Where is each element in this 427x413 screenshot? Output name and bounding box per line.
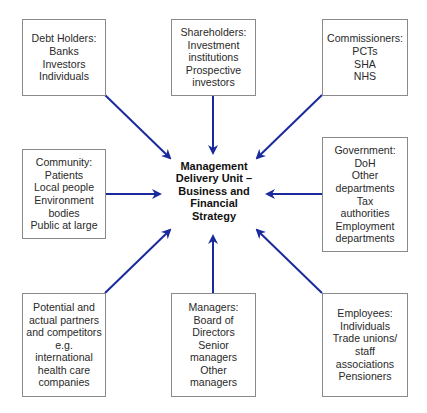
- box-line: Community:: [36, 156, 93, 169]
- center-line: Delivery Unit –: [150, 172, 278, 184]
- box-line: authorities: [341, 207, 390, 220]
- box-line: departments: [336, 232, 395, 245]
- box-partners-competitors: Potential and actual partners and compet…: [22, 293, 106, 397]
- box-line: Directors: [192, 326, 234, 339]
- box-line: SHA: [354, 58, 376, 71]
- arrow-commissioners: [257, 95, 322, 158]
- box-line: managers: [190, 376, 237, 389]
- box-line: Banks: [49, 45, 78, 58]
- box-line: PCTs: [352, 45, 377, 58]
- box-community: Community: Patients Local people Environ…: [22, 149, 106, 239]
- box-line: departments: [336, 182, 395, 195]
- box-employees: Employees: Individuals Trade unions/ sta…: [322, 293, 408, 397]
- center-line: Business and: [150, 185, 278, 197]
- box-line: investors: [192, 76, 234, 89]
- box-line: Individuals: [340, 320, 390, 333]
- box-line: and competitors: [26, 326, 101, 339]
- box-line: actual partners: [29, 314, 99, 327]
- box-line: Local people: [34, 181, 94, 194]
- box-line: Individuals: [39, 70, 89, 83]
- box-line: international: [35, 351, 93, 364]
- box-line: Pensioners: [339, 370, 392, 383]
- box-line: companies: [38, 376, 89, 389]
- box-government: Government: DoH Other departments Tax au…: [322, 137, 408, 252]
- box-line: Trade unions/: [333, 332, 397, 345]
- center-line: Management: [150, 160, 278, 172]
- box-shareholders: Shareholders: Investment institutions Pr…: [171, 19, 256, 96]
- box-line: Commissioners:: [327, 32, 403, 45]
- box-line: Other: [352, 169, 379, 182]
- center-line: Financial: [150, 197, 278, 209]
- arrow-employees: [257, 230, 322, 293]
- box-line: DoH: [354, 157, 375, 170]
- box-line: Other: [200, 364, 227, 377]
- arrow-partners: [105, 230, 170, 293]
- box-line: Employment: [336, 220, 395, 233]
- box-line: staff: [355, 345, 375, 358]
- box-line: Prospective: [186, 64, 241, 77]
- box-line: Senior: [198, 339, 229, 352]
- box-managers: Managers: Board of Directors Senior mana…: [171, 293, 256, 397]
- box-line: bodies: [48, 207, 79, 220]
- central-node-management-delivery-unit: Management Delivery Unit – Business and …: [150, 160, 278, 222]
- box-line: institutions: [188, 51, 238, 64]
- box-line: Investors: [43, 58, 86, 71]
- box-line: Investment: [188, 39, 240, 52]
- box-line: Managers:: [188, 301, 238, 314]
- arrow-debt-holders: [105, 95, 170, 158]
- box-line: e.g.: [55, 339, 73, 352]
- center-line: Strategy: [150, 210, 278, 222]
- box-line: Employees:: [337, 307, 392, 320]
- box-line: Environment: [34, 194, 93, 207]
- box-line: associations: [336, 358, 394, 371]
- box-line: NHS: [354, 70, 376, 83]
- box-commissioners: Commissioners: PCTs SHA NHS: [322, 19, 408, 96]
- box-line: Debt Holders:: [32, 32, 97, 45]
- box-line: Tax: [357, 195, 374, 208]
- box-line: Patients: [45, 169, 83, 182]
- box-line: Government:: [334, 144, 395, 157]
- box-line: Public at large: [30, 219, 97, 232]
- box-line: Potential and: [33, 301, 95, 314]
- box-line: managers: [190, 351, 237, 364]
- box-line: health care: [38, 364, 90, 377]
- box-line: Shareholders:: [181, 26, 247, 39]
- box-debt-holders: Debt Holders: Banks Investors Individual…: [22, 19, 106, 96]
- box-line: Board of: [193, 314, 233, 327]
